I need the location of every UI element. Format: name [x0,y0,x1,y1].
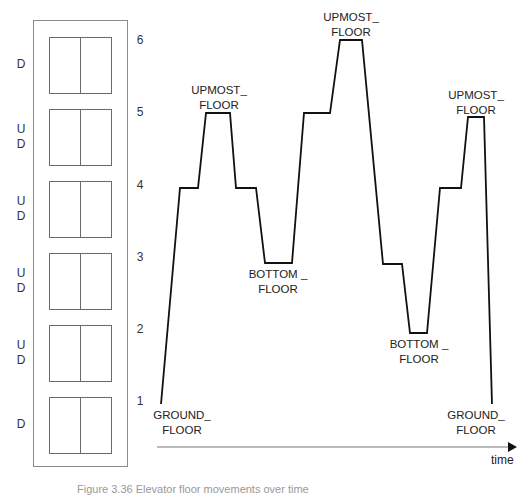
time-axis-label: time [491,453,514,467]
time-axis-arrowhead-icon [508,442,517,452]
annotation-upmost-floor-3: UPMOST_ FLOOR [443,88,509,118]
annotation-ground-floor-end: GROUND_ FLOOR [443,408,509,438]
annotation-bottom-floor-1: BOTTOM _ FLOOR [245,267,311,297]
annotation-bottom-floor-2: BOTTOM _ FLOOR [386,337,452,367]
annotation-upmost-floor-1: UPMOST_ FLOOR [186,83,252,113]
figure-caption: Figure 3.36 Elevator floor movements ove… [77,483,309,495]
annotation-ground-floor-start: GROUND_ FLOOR [152,408,212,438]
annotation-upmost-floor-2: UPMOST_ FLOOR [318,10,384,40]
